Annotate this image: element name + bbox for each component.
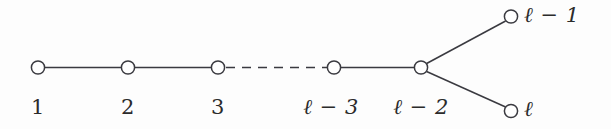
node-label-l-minus-1: ℓ − 1 — [524, 5, 580, 26]
node-label-2: 2 — [121, 97, 135, 118]
node-1[interactable] — [31, 61, 44, 74]
node-l-minus-3[interactable] — [327, 61, 340, 74]
node-2[interactable] — [121, 61, 134, 74]
node-label-l-minus-3: ℓ − 3 — [303, 97, 359, 118]
diagram-canvas: 1 2 3 ℓ − 3 ℓ − 2 ℓ − 1 ℓ — [0, 0, 611, 129]
node-l[interactable] — [504, 104, 517, 117]
node-l-minus-1[interactable] — [504, 10, 517, 23]
node-3[interactable] — [211, 61, 224, 74]
node-label-1: 1 — [31, 97, 45, 118]
node-label-l-minus-2: ℓ − 2 — [393, 97, 449, 118]
node-label-l: ℓ — [524, 99, 533, 120]
edge-lminus2-lminus1 — [427, 21, 506, 64]
node-label-3: 3 — [211, 97, 225, 118]
node-l-minus-2[interactable] — [414, 61, 427, 74]
